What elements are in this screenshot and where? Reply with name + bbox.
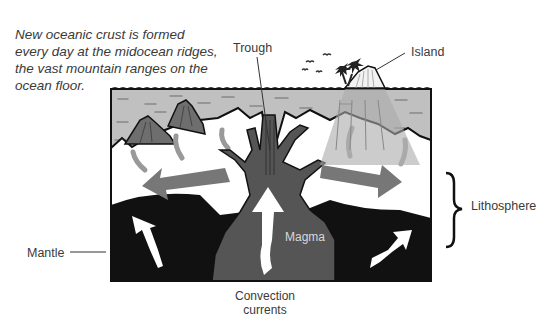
birds [302,54,331,72]
label-trough: Trough [233,41,272,55]
label-convection-line-2: currents [235,303,295,314]
label-mantle: Mantle [27,246,65,260]
label-lithosphere: Lithosphere [471,199,536,213]
lithosphere-brace [446,173,462,247]
label-island: Island [411,45,444,59]
label-convection-currents: Convection currents [235,289,295,314]
midocean-ridge-diagram [0,0,550,314]
label-magma: Magma [285,230,325,244]
island-leader-line [376,53,405,70]
label-convection-line-1: Convection [235,289,295,303]
